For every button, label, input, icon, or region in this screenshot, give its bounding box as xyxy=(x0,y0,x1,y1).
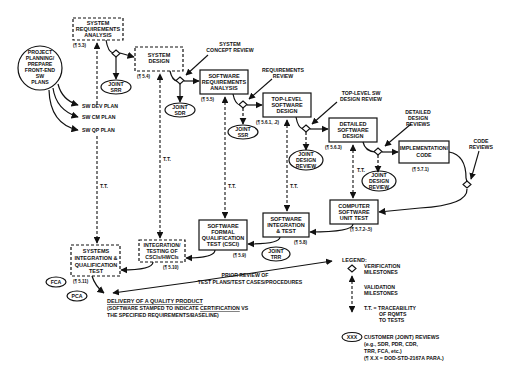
svg-text:(SOFTWARE STAMPED TO INDICATE: (SOFTWARE STAMPED TO INDICATE CERTIFICAT… xyxy=(107,305,249,311)
svg-text:JOINTDESIGNREVIEW: JOINTDESIGNREVIEW xyxy=(369,172,390,190)
box-software-requirements-analysis: SOFTWAREREQUIREMENTSANALYSIS (¶ 5.5) xyxy=(200,70,248,102)
svg-text:CUSTOMER (JOINT) REVIEWS(e.g.,: CUSTOMER (JOINT) REVIEWS(e.g., SDR, PDR,… xyxy=(364,334,444,361)
plan-sw-cm: SW CM PLAN xyxy=(82,114,116,120)
plan-arrows xyxy=(49,84,78,130)
svg-text:SOFTWAREREQUIREMENTSANALYSIS: SOFTWAREREQUIREMENTSANALYSIS xyxy=(202,73,247,91)
svg-text:T.T. = TRACEABILITYOF RQMTSTO: T.T. = TRACEABILITYOF RQMTSTO TESTS xyxy=(364,305,417,323)
svg-text:SYSTEMDESIGN: SYSTEMDESIGN xyxy=(148,52,171,64)
plan-sw-qp: SW QP PLAN xyxy=(82,127,115,133)
diagram-svg: SYSTEMREQUIREMENTSANALYSIS (¶ 5.3) SYSTE… xyxy=(0,0,516,379)
svg-text:(¶ 5.11): (¶ 5.11) xyxy=(73,279,89,284)
svg-text:SOFTWAREFORMALQUALIFICATIONTES: SOFTWAREFORMALQUALIFICATIONTEST (CSCI) xyxy=(202,223,245,247)
svg-text:DETAILEDSOFTWAREDESIGN: DETAILEDSOFTWAREDESIGN xyxy=(337,121,368,139)
diamond-icon xyxy=(463,181,471,188)
svg-text:VALIDATIONMILESTONES: VALIDATIONMILESTONES xyxy=(364,284,398,296)
svg-text:INTEGRATION/TESTING OFCSCIs/HW: INTEGRATION/TESTING OFCSCIs/HWCIs xyxy=(144,242,181,260)
callout-requirements-review: REQUIREMENTSREVIEW xyxy=(262,67,304,79)
review-fca: FCA xyxy=(46,277,66,287)
box-system-requirements-analysis: SYSTEMREQUIREMENTSANALYSIS (¶ 5.3) xyxy=(73,18,123,48)
joint-review-arrows xyxy=(116,57,378,172)
svg-text:JOINTSRR: JOINTSRR xyxy=(108,81,124,93)
svg-text:JOINTSDR: JOINTSDR xyxy=(172,104,188,116)
callout-system-concept-review: SYSTEMCONCEPT REVIEW xyxy=(206,41,253,53)
legend: LEGEND: VERIFICATIONMILESTONES VALIDATIO… xyxy=(342,257,444,361)
svg-text:XXX: XXX xyxy=(347,334,358,340)
review-joint-sdr: JOINTSDR xyxy=(165,103,195,117)
svg-text:T.T.: T.T. xyxy=(163,156,171,162)
svg-text:THE SPECIFIED REQUIREMENTS/BAS: THE SPECIFIED REQUIREMENTS/BASELINE) xyxy=(107,312,219,318)
svg-text:PCA: PCA xyxy=(72,293,83,299)
delivery-statement: DELIVERY OF A QUALITY PRODUCT (SOFTWARE … xyxy=(107,298,249,318)
svg-text:IMPLEMENTATION/CODE: IMPLEMENTATION/CODE xyxy=(400,145,449,158)
svg-text:(¶ 5.5): (¶ 5.5) xyxy=(201,97,215,102)
svg-text:(¶ 5.6.1, .2): (¶ 5.6.1, .2) xyxy=(256,120,280,125)
box-system-design: SYSTEMDESIGN (¶ 5.4) xyxy=(135,47,183,79)
svg-text:VERIFICATIONMILESTONES: VERIFICATIONMILESTONES xyxy=(364,263,400,275)
callout-detailed-design-reviews: DETAILEDDESIGNREVIEWS xyxy=(405,109,431,127)
diamond-icon xyxy=(176,77,184,84)
svg-text:TOP-LEVELSOFTWAREDESIGN: TOP-LEVELSOFTWAREDESIGN xyxy=(271,96,303,114)
diamond-icon xyxy=(302,125,310,132)
svg-text:JOINTDESIGNREVIEW: JOINTDESIGNREVIEW xyxy=(296,151,317,169)
box-implementation-code: IMPLEMENTATION/CODE (¶ 5.7.1) xyxy=(399,141,449,172)
svg-text:(¶ 5.6.3): (¶ 5.6.3) xyxy=(325,145,342,150)
plan-sw-dev: SW DEV PLAN xyxy=(82,103,118,109)
diamond-icon xyxy=(112,50,120,57)
review-joint-trr: JOINTTRR xyxy=(262,247,290,261)
svg-text:PROJECTPLANNING/PREPAREFRONT-E: PROJECTPLANNING/PREPAREFRONT-ENDSWPLANS xyxy=(25,49,56,85)
svg-text:COMPUTERSOFTWAREUNIT TEST: COMPUTERSOFTWAREUNIT TEST xyxy=(338,203,370,221)
review-pca: PCA xyxy=(67,291,87,301)
box-software-integration-test: SOFTWAREINTEGRATION& TEST (¶ 5.8) xyxy=(263,213,309,245)
box-computer-software-unit-test: COMPUTERSOFTWAREUNIT TEST (¶ 5.7.2-.5) xyxy=(330,200,378,232)
svg-text:(¶ 5.7.1): (¶ 5.7.1) xyxy=(412,167,429,172)
svg-text:T.T.: T.T. xyxy=(228,183,236,189)
tt-labels: T.T. T.T. T.T. T.T. T.T. xyxy=(100,156,365,189)
svg-text:T.T.: T.T. xyxy=(290,183,298,189)
svg-text:DELIVERY OF A QUALITY PRODUCT: DELIVERY OF A QUALITY PRODUCT xyxy=(107,298,203,304)
svg-text:SYSTEMSINTEGRATION &QUALIFICAT: SYSTEMSINTEGRATION &QUALIFICATIONTEST xyxy=(75,248,118,274)
svg-text:T.T.: T.T. xyxy=(100,183,108,189)
svg-text:SYSTEMREQUIREMENTSANALYSIS: SYSTEMREQUIREMENTSANALYSIS xyxy=(76,20,121,38)
diamond-icon xyxy=(374,148,382,155)
callout-prior-review: PRIOR REVIEW OFTEST PLANS/TEST CASES/PRO… xyxy=(198,272,303,285)
svg-text:(¶ 5.7.2-.5): (¶ 5.7.2-.5) xyxy=(350,227,373,232)
review-joint-design-2: JOINTDESIGNREVIEW xyxy=(362,171,396,191)
box-top-level-software-design: TOP-LEVELSOFTWAREDESIGN (¶ 5.6.1, .2) xyxy=(256,93,311,125)
svg-text:JOINTTRR: JOINTTRR xyxy=(268,248,284,260)
box-software-formal-qualification-test: SOFTWAREFORMALQUALIFICATIONTEST (CSCI) (… xyxy=(199,220,247,258)
svg-text:T.T.: T.T. xyxy=(357,167,365,173)
svg-text:SOFTWAREINTEGRATION& TEST: SOFTWAREINTEGRATION& TEST xyxy=(267,216,305,234)
svg-text:(¶ 5.9): (¶ 5.9) xyxy=(233,253,247,258)
svg-text:(¶ 5.8): (¶ 5.8) xyxy=(294,240,308,245)
box-integration-testing-cscis-hwcis: INTEGRATION/TESTING OFCSCIs/HWCIs (¶ 5.1… xyxy=(139,240,185,270)
review-joint-design-1: JOINTDESIGNREVIEW xyxy=(289,150,323,170)
svg-text:(¶ 5.4): (¶ 5.4) xyxy=(137,74,151,79)
legend-diamond-icon xyxy=(348,265,356,272)
callout-code-reviews: CODEREVIEWS xyxy=(469,138,493,150)
svg-text:(¶ 5.10): (¶ 5.10) xyxy=(163,265,179,270)
project-planning-circle: PROJECTPLANNING/PREPAREFRONT-ENDSWPLANS xyxy=(18,46,62,90)
box-detailed-software-design: DETAILEDSOFTWAREDESIGN (¶ 5.6.3) xyxy=(325,118,377,150)
callout-top-level-sw-design-review: TOP-LEVEL SWDESIGN REVIEW xyxy=(340,90,382,102)
box-systems-integration-qualification-test: SYSTEMSINTEGRATION &QUALIFICATIONTEST (¶… xyxy=(71,245,120,284)
review-joint-ssr: JOINTSSR xyxy=(228,125,258,139)
review-joint-srr: JOINTSRR xyxy=(101,80,131,94)
svg-text:(¶ 5.3): (¶ 5.3) xyxy=(73,43,87,48)
svg-text:JOINTSSR: JOINTSSR xyxy=(235,126,251,138)
software-lifecycle-diagram: SYSTEMREQUIREMENTSANALYSIS (¶ 5.3) SYSTE… xyxy=(0,0,516,379)
diamond-icon xyxy=(239,101,247,108)
svg-text:FCA: FCA xyxy=(51,279,62,285)
